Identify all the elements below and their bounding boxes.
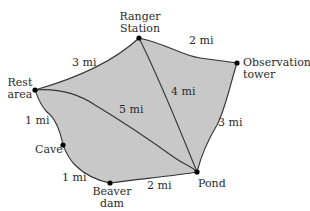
distance-rest-ranger: 3 mi [72, 57, 96, 69]
node-ranger-station [136, 35, 141, 40]
distance-tower-pond: 3 mi [218, 117, 242, 129]
label-beaver-dam: Beaver dam [92, 186, 132, 210]
label-line: dam [92, 198, 132, 210]
label-line: Cave [35, 144, 63, 156]
node-pond [194, 169, 199, 174]
label-ranger-station: Ranger Station [116, 11, 164, 35]
label-line: tower [243, 69, 310, 81]
distance-beaver-pond: 2 mi [147, 180, 171, 192]
label-line: Pond [198, 178, 226, 190]
label-rest-area: Rest area [6, 77, 34, 101]
label-line: area [6, 89, 34, 101]
distance-cave-beaver: 1 mi [62, 172, 86, 184]
label-cave: Cave [35, 144, 63, 156]
distance-rest-pond: 5 mi [119, 104, 143, 116]
distance-ranger-pond: 4 mi [171, 86, 195, 98]
node-observation-tower [234, 60, 239, 65]
label-line: Station [116, 23, 164, 35]
distance-rest-cave: 1 mi [25, 115, 49, 127]
distance-ranger-tower: 2 mi [189, 35, 213, 47]
label-pond: Pond [198, 178, 226, 190]
label-observation-tower: Observation tower [243, 57, 310, 81]
